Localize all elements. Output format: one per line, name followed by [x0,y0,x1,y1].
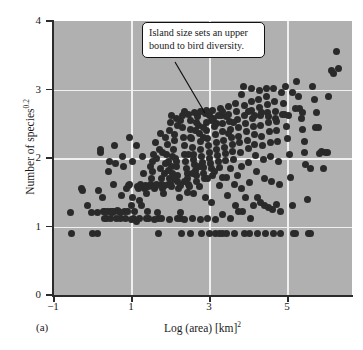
data-point [97,149,104,156]
annotation-callout: Island size sets an upper bound to bird … [142,22,265,58]
data-point [120,163,127,170]
y-tick-1 [46,226,52,228]
data-point [203,107,210,114]
data-point [166,127,173,134]
data-point [131,208,138,215]
data-point [242,194,249,201]
data-point [251,131,258,138]
data-point [246,230,253,237]
y-tick-0 [46,294,52,296]
x-axis-title-exponent: 2 [237,320,241,329]
annotation-line-2: bound to bird diversity. [149,40,258,53]
data-point [253,168,260,175]
data-point [240,83,247,90]
data-point [144,208,151,215]
data-point [285,112,292,119]
data-point [160,190,167,197]
data-point [247,215,254,222]
data-point [129,194,136,201]
data-point [224,192,231,199]
data-point [189,170,196,177]
data-point [238,185,245,192]
y-tick-3 [46,89,52,91]
data-point [265,204,272,211]
x-axis-line [52,295,353,297]
x-tick-label-5: 5 [277,301,297,312]
data-point [299,126,306,133]
data-point [136,215,143,222]
data-point [273,127,280,134]
data-point [307,165,314,172]
data-point [272,115,279,122]
y-tick-2 [46,157,52,159]
y-tick-label-4: 4 [23,15,41,26]
data-point [258,133,265,140]
data-point [292,230,299,237]
data-point [181,216,188,223]
data-point [255,96,262,103]
data-point [293,78,300,85]
data-point [180,134,187,141]
x-tick-label-1: 1 [121,301,141,312]
data-point [333,48,340,55]
data-point [178,230,185,237]
data-point [99,194,106,201]
data-point [274,138,281,145]
data-point [176,194,183,201]
data-point [262,230,269,237]
data-point [284,135,291,142]
y-axis-title-exponent: 0.2 [22,99,31,108]
data-point [237,149,244,156]
data-point [219,108,226,115]
data-point [133,142,140,149]
data-point [197,216,204,223]
data-point [166,216,173,223]
data-point [119,153,126,160]
data-point [147,163,154,170]
data-point [238,163,245,170]
data-point [235,124,242,131]
data-point [275,158,282,165]
data-point [117,209,124,216]
annotation-line-1: Island size sets an upper [149,27,258,40]
data-point [212,131,219,138]
figure-panel: 4 3 2 1 0 −1 1 3 5 Number of species0.2 … [0,0,363,350]
data-point [259,142,266,149]
y-axis-title-main: Number of species [24,108,36,194]
data-point [225,103,232,110]
data-point [230,156,237,163]
y-axis-line [52,20,54,297]
data-point [124,208,131,215]
data-point [270,230,277,237]
data-point [325,93,332,100]
data-point [151,216,158,223]
data-point [301,138,308,145]
data-point [264,101,271,108]
data-point [187,230,194,237]
data-point [126,134,133,141]
data-point [311,96,318,103]
data-point [277,208,284,215]
data-point [250,202,257,209]
data-point [250,123,257,130]
data-point [220,137,227,144]
data-point [109,208,116,215]
data-point [158,215,165,222]
data-point [229,141,236,148]
x-axis-title: Log (area) [km]2 [53,320,352,334]
data-point [232,100,239,107]
x-tick-label-minus1: −1 [43,301,63,312]
data-point [257,122,264,129]
data-point [67,209,74,216]
data-point [316,150,323,157]
data-point [143,190,150,197]
data-point [219,211,226,218]
y-tick-4 [46,20,52,22]
plot-area [53,21,352,295]
data-point [248,85,255,92]
data-point [198,230,205,237]
data-point [299,109,306,116]
gridline-y-1 [53,227,352,229]
panel-label: (a) [36,321,48,333]
data-point [286,151,293,158]
